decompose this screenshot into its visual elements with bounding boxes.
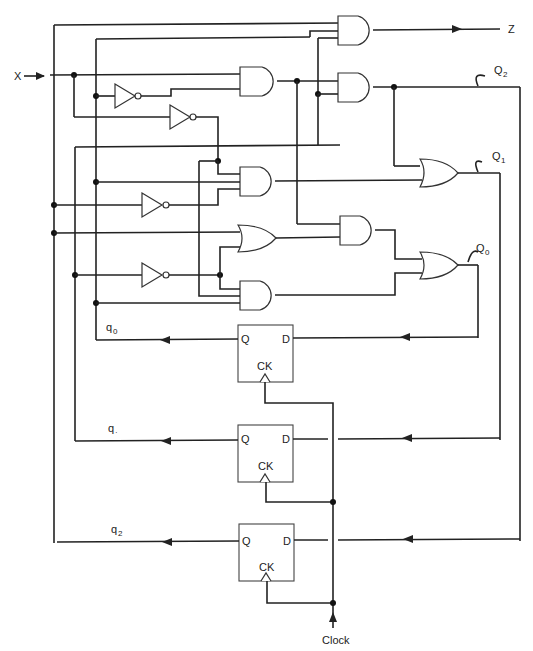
svg-text:X: X — [14, 70, 22, 82]
svg-text:2: 2 — [503, 70, 508, 79]
flip-flop-0: Q D CK q 0 — [96, 321, 478, 382]
svg-text:Q: Q — [492, 150, 501, 162]
svg-text:q: q — [111, 523, 117, 535]
svg-text:q: q — [108, 422, 114, 434]
svg-text:D: D — [282, 433, 290, 445]
and-gate-q2: Q 2 — [315, 64, 520, 541]
svg-text:CK: CK — [258, 460, 274, 472]
not-gate-2 — [170, 105, 221, 164]
flip-flop-1: Q D CK q · — [75, 422, 500, 482]
svg-text:0: 0 — [113, 327, 118, 336]
not-gate-3 — [54, 189, 240, 217]
clock-network: Clock — [265, 382, 350, 646]
or-gate-c — [54, 225, 340, 275]
circuit-diagram: X — [0, 0, 533, 651]
flip-flop-2: Q D CK q 2 — [57, 523, 520, 581]
svg-text:CK: CK — [257, 360, 273, 372]
svg-text:CK: CK — [259, 561, 275, 573]
svg-text:0: 0 — [485, 248, 490, 257]
svg-text:Q: Q — [242, 535, 251, 547]
not-gate-4 — [75, 263, 223, 287]
svg-text:Z: Z — [508, 23, 515, 35]
svg-text:Q: Q — [494, 64, 503, 76]
svg-text:Q: Q — [241, 433, 250, 445]
svg-text:D: D — [282, 333, 290, 345]
or-gate-q0: Q 0 — [420, 242, 490, 338]
svg-text:Q: Q — [241, 333, 250, 345]
svg-text:·: · — [115, 428, 118, 437]
and-gate-b — [96, 161, 422, 196]
svg-text:q: q — [106, 321, 112, 333]
svg-text:1: 1 — [501, 156, 506, 165]
svg-text:2: 2 — [118, 529, 123, 538]
not-gate-1 — [96, 84, 240, 108]
svg-text:Clock: Clock — [322, 634, 350, 646]
and-gate-d — [340, 216, 422, 259]
svg-text:Q: Q — [476, 242, 485, 254]
or-gate-q1: Q 1 — [420, 150, 506, 440]
svg-text:D: D — [283, 535, 291, 547]
